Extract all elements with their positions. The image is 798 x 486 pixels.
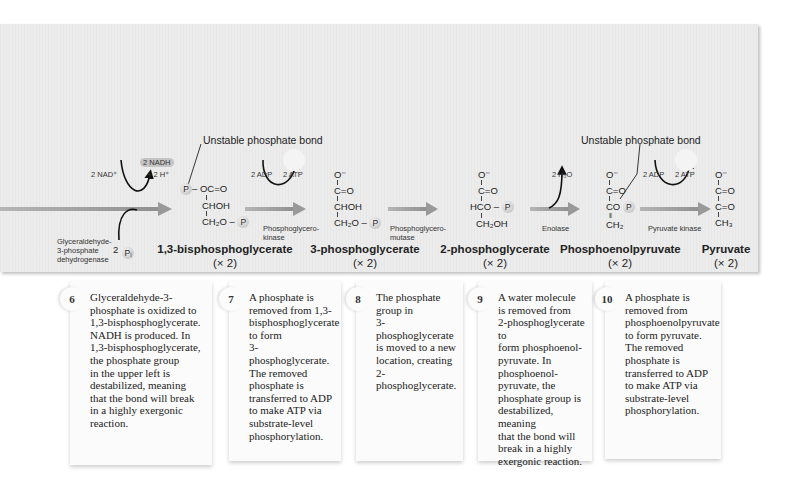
atp-output-7: 2 ATP [283,170,303,179]
step-text-6: Glyceraldehyde-3- phosphate is oxidized … [70,281,212,440]
molecule-count-3pg: (× 2) [300,256,430,270]
nadh-output: 2 NADH [140,158,174,167]
molecule-count-pyruvate: (× 2) [695,256,757,270]
pi-ball-icon: Pᵢ [122,247,134,259]
nad-input: 2 NAD⁺ [91,170,117,179]
unstable-bond-label-2: Unstable phosphate bond [581,134,701,146]
2pg-structure: O⁻ C=O HCO – P CH₂OH [470,169,514,229]
step-box-6: 6 Glyceraldehyde-3- phosphate is oxidize… [70,281,212,465]
enzyme-pyruvate-kinase: Pyruvate kinase [648,224,701,233]
adp-input-10: 2 ADP [643,170,664,179]
step-box-7: 7 A phosphate is removed from 1,3- bisph… [229,281,341,461]
phosphate-ball-icon: P [237,216,249,228]
step-number-10: 10 [595,287,619,311]
adp-input-7: 2 ADP [251,170,272,179]
step-text-7: A phosphate is removed from 1,3- bisphos… [229,281,341,452]
step-number-7: 7 [219,287,243,311]
enzyme-pgk: Phosphoglycero- kinase [263,224,319,242]
pi-coef: 2 [113,244,118,255]
h-output: + 2 H⁺ [147,170,169,179]
step-text-8: The phosphate group in 3-phosphoglycerat… [356,281,463,402]
3pg-structure: O⁻ C=O CHOH CH₂O – P [334,169,381,229]
step-number-6: 6 [60,287,84,311]
molecule-name-pyruvate: Pyruvate [695,242,757,256]
unstable-bond-label-1: Unstable phosphate bond [203,134,323,146]
enzyme-pgm: Phosphoglycero- mutase [390,224,446,242]
molecule-name-2pg: 2-phosphoglycerate [430,242,560,256]
molecule-name-pep: Phosphoenolpyruvate [560,242,680,256]
step-box-9: 9 A water molecule is removed from 2-pho… [478,281,592,461]
atp-output-10: 2 ATP [675,170,695,179]
step-number-9: 9 [468,287,492,311]
molecule-count-pep: (× 2) [560,256,680,270]
step-text-10: A phosphate is removed from phosphoenolp… [605,281,721,427]
pep-structure: O⁻ C=O CO P ‖ CH₂ [606,169,635,230]
pathway-arrows [0,24,758,272]
enzyme-enolase: Enolase [542,224,569,233]
pi-input: Pᵢ [122,242,134,260]
phosphate-ball-icon: P [180,183,192,195]
step-box-10: 10 A phosphate is removed from phosphoen… [605,281,721,459]
phosphate-ball-icon: P [369,217,381,229]
molecule-name-3pg: 3-phosphoglycerate [300,242,430,256]
phosphate-ball-icon: P [623,201,635,213]
enzyme-gapdh: Glyceraldehyde- 3-phosphate dehydrogenas… [57,237,112,264]
pyruvate-structure: O⁻ C=O C=O CH₃ [715,169,735,228]
molecule-name-bpg: 1,3-bisphosphoglycerate [140,242,310,256]
glycolysis-pathway-panel: Unstable phosphate bond Unstable phospha… [0,24,758,272]
phosphate-ball-icon: P [502,201,514,213]
molecule-count-bpg: (× 2) [140,256,310,270]
bpg-structure: P– OC=O CHOH CH₂O – P [180,183,249,228]
step-box-8: 8 The phosphate group in 3-phosphoglycer… [356,281,463,461]
step-text-9: A water molecule is removed from 2-phosp… [478,281,592,477]
step-number-8: 8 [346,287,370,311]
h2o-output: 2 H₂O [552,170,572,179]
molecule-count-2pg: (× 2) [430,256,560,270]
